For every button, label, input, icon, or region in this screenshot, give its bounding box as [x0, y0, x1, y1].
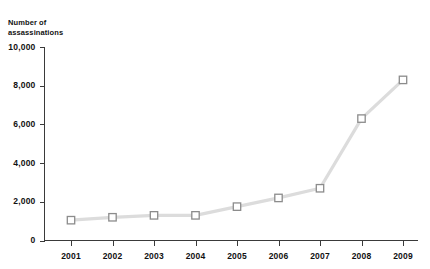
x-tick-label-2002: 2002 [93, 251, 133, 261]
x-tick-label-2006: 2006 [259, 251, 299, 261]
data-point-2008 [358, 115, 365, 122]
data-point-2003 [150, 212, 157, 219]
data-point-2005 [233, 203, 240, 210]
x-tick-label-2001: 2001 [51, 251, 91, 261]
x-tick-label-2007: 2007 [300, 251, 340, 261]
series-markers [67, 76, 406, 224]
x-tick-label-2008: 2008 [342, 251, 382, 261]
y-tick-label-10000: 10,000 [0, 42, 36, 52]
data-point-2009 [399, 76, 406, 83]
y-tick-label-6000: 6,000 [0, 119, 36, 129]
y-tick-label-2000: 2,000 [0, 196, 36, 206]
data-point-2002 [109, 214, 116, 221]
y-tick-label-0: 0 [0, 235, 36, 245]
data-point-2001 [67, 216, 74, 223]
data-point-2004 [192, 212, 199, 219]
x-tick-label-2005: 2005 [217, 251, 257, 261]
data-series [67, 76, 406, 224]
x-tick-label-2009: 2009 [383, 251, 423, 261]
plot-area [0, 0, 430, 269]
assassinations-line-chart: Number of assassinations 02,0004,0006,00… [0, 0, 430, 269]
x-tick-label-2003: 2003 [134, 251, 174, 261]
axes [45, 47, 419, 241]
data-point-2007 [316, 185, 323, 192]
y-tick-label-4000: 4,000 [0, 158, 36, 168]
x-tick-label-2004: 2004 [176, 251, 216, 261]
y-tick-label-8000: 8,000 [0, 80, 36, 90]
series-line [71, 80, 403, 220]
data-point-2006 [275, 194, 282, 201]
